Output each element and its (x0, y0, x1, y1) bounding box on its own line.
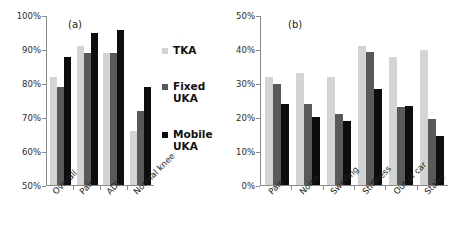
category-labels-b: PainNoiseSwellingStiffnessOut of carStai… (261, 186, 448, 248)
bar (327, 77, 335, 185)
bar (130, 131, 137, 185)
bar (304, 104, 312, 185)
y-tick-mark (42, 50, 46, 51)
x-tick-mark (73, 186, 74, 190)
y-tick-mark (42, 16, 46, 17)
y-tick-label: 0% (242, 182, 256, 191)
legend-item-fixed-uka: Fixed UKA (162, 80, 228, 104)
y-tick-label: 10% (236, 148, 255, 157)
bar (273, 84, 281, 185)
legend-swatch-fixed-uka-icon (162, 84, 168, 90)
bar (265, 77, 273, 185)
y-tick-mark (42, 152, 46, 153)
bar-group (386, 16, 417, 185)
bar-group (355, 16, 386, 185)
y-tick-label: 20% (236, 114, 255, 123)
chart-legend: TKA Fixed UKA Mobile UKA (162, 44, 228, 176)
bar (137, 111, 144, 185)
y-tick-label: 70% (22, 114, 41, 123)
bar (91, 33, 98, 185)
legend-swatch-tka-icon (162, 48, 168, 54)
bar (64, 57, 71, 185)
bar (117, 30, 124, 185)
bar (77, 46, 84, 185)
plot-area-a: OverallPainADLNormal knee 100%90%80%70%6… (46, 16, 154, 186)
legend-item-tka: TKA (162, 44, 228, 56)
legend-label-fixed-uka: Fixed UKA (173, 80, 228, 104)
bar (281, 104, 289, 185)
bar (110, 53, 117, 185)
y-tick-label: 90% (22, 46, 41, 55)
bar-group (127, 16, 154, 185)
bar (57, 87, 64, 185)
y-tick-mark (256, 84, 260, 85)
bar (50, 77, 57, 185)
y-tick-label: 50% (22, 182, 41, 191)
bar (296, 73, 304, 185)
x-tick-mark (291, 186, 292, 190)
x-tick-mark (127, 186, 128, 190)
y-tick-label: 60% (22, 148, 41, 157)
y-tick-mark (256, 118, 260, 119)
y-tick-label: 100% (17, 12, 41, 21)
y-tick-mark (42, 186, 46, 187)
y-tick-label: 50% (236, 12, 255, 21)
bar-group (261, 16, 292, 185)
bar-group (323, 16, 354, 185)
y-tick-mark (256, 16, 260, 17)
bar (358, 46, 366, 185)
x-tick-mark (385, 186, 386, 190)
bar-group (292, 16, 323, 185)
y-tick-mark (256, 50, 260, 51)
y-tick-label: 30% (236, 80, 255, 89)
bar (389, 57, 397, 185)
legend-item-mobile-uka: Mobile UKA (162, 128, 228, 152)
x-tick-mark (323, 186, 324, 190)
bar-group (74, 16, 101, 185)
bar-groups-a (47, 16, 154, 185)
bar (84, 53, 91, 185)
plot-area-b: PainNoiseSwellingStiffnessOut of carStai… (260, 16, 448, 186)
bar (103, 53, 110, 185)
y-tick-mark (256, 152, 260, 153)
bar (397, 107, 405, 185)
y-tick-mark (42, 84, 46, 85)
legend-swatch-mobile-uka-icon (162, 132, 168, 138)
x-tick-mark (100, 186, 101, 190)
bar-group (101, 16, 128, 185)
bar (366, 52, 374, 186)
y-tick-mark (42, 118, 46, 119)
legend-label-mobile-uka: Mobile UKA (173, 128, 228, 152)
y-tick-label: 80% (22, 80, 41, 89)
bar-group (47, 16, 74, 185)
category-labels-a: OverallPainADLNormal knee (47, 186, 154, 248)
x-tick-mark (417, 186, 418, 190)
y-tick-label: 40% (236, 46, 255, 55)
y-tick-mark (256, 186, 260, 187)
chart-panel-b: (b) PainNoiseSwellingStiffnessOut of car… (230, 0, 460, 252)
legend-label-tka: TKA (173, 44, 196, 56)
figure-bar-charts: (a) OverallPainADLNormal knee 100%90%80%… (0, 0, 460, 252)
x-tick-mark (354, 186, 355, 190)
